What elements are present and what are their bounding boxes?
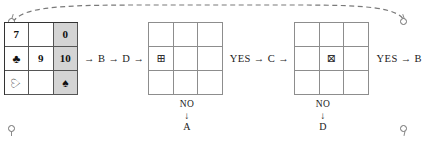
grid-2-cell-r2c3 (198, 47, 223, 71)
bottom-right-pin-icon (400, 125, 414, 141)
grid-3-cell-r1c1 (295, 23, 320, 47)
diagram-canvas: 7 0 ♣ 6 10 ♡ ♠ → B → D → ⊞ YES → C → (0, 0, 422, 147)
grid-1-cell-r3c3: ♠ (54, 71, 79, 95)
bottom-left-pin-icon (8, 125, 22, 141)
grid-2-cell-r2c1: ⊞ (149, 47, 174, 71)
grid-1-cell-r1c2 (29, 23, 54, 47)
grid-3-cell-r3c3 (344, 71, 369, 95)
spade-icon: ♠ (62, 77, 68, 89)
branch-a-arrow-icon: ↓ (150, 111, 224, 121)
branch-a: NO ↓ A (150, 100, 224, 132)
grid-1-cell-r3c2 (29, 71, 54, 95)
grid-1: 7 0 ♣ 6 10 ♡ ♠ (4, 22, 79, 95)
grid-3-cell-r1c2 (320, 23, 345, 47)
grid-3-cell-r3c2 (320, 71, 345, 95)
branch-d-arrow-icon: ↓ (286, 111, 360, 121)
connector-after-grid-3: YES → B (369, 22, 422, 94)
squared-times-icon: ⊠ (327, 53, 336, 64)
club-icon: ♣ (12, 53, 20, 65)
grid-2-cell-r1c1 (149, 23, 174, 47)
branch-d: NO ↓ D (286, 100, 360, 132)
grid-3-cell-r2c3 (344, 47, 369, 71)
connector-before-grid-2: → B → D → (78, 22, 148, 94)
grid-2-cell-r2c2 (174, 47, 199, 71)
branch-d-target: D (286, 122, 360, 133)
grid-3-cell-r1c3 (344, 23, 369, 47)
grid-2: ⊞ (148, 22, 223, 95)
branch-a-condition: NO (150, 100, 224, 110)
grid-1-cell-r2c1: ♣ (5, 47, 30, 71)
grid-2-cell-r3c1 (149, 71, 174, 95)
pin-tail (11, 131, 12, 136)
grid-1-cell-r1c1: 7 (5, 23, 30, 47)
grid-2-cell-r1c3 (198, 23, 223, 47)
grid-3-cell-r2c2: ⊠ (320, 47, 345, 71)
grid-2-cell-r1c2 (174, 23, 199, 47)
grid-1-cell-r3c1: ♡ (5, 71, 30, 95)
branch-d-condition: NO (286, 100, 360, 110)
pin-tail (403, 131, 405, 136)
grid-2-cell-r3c2 (174, 71, 199, 95)
branch-a-target: A (150, 122, 224, 133)
grid-1-cell-r2c3: 10 (54, 47, 79, 71)
grid-1-cell-r1c3: 0 (54, 23, 79, 47)
grid-3-cell-r3c1 (295, 71, 320, 95)
grid-3-cell-r2c1 (295, 47, 320, 71)
grid-3: ⊠ (294, 22, 369, 95)
connector-between-grid-2-and-3: YES → C → (223, 22, 294, 94)
grid-1-cell-r2c2: 6 (29, 47, 54, 71)
squared-plus-icon: ⊞ (156, 53, 165, 64)
diagram-flow-row: 7 0 ♣ 6 10 ♡ ♠ → B → D → ⊞ YES → C → (0, 22, 422, 100)
grid-2-cell-r3c3 (198, 71, 223, 95)
heart-icon: ♡ (10, 77, 22, 88)
